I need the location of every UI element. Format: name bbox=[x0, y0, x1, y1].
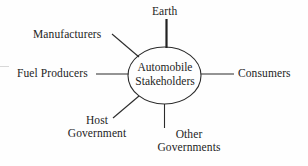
node-label-host-government-line1: Host bbox=[86, 114, 108, 126]
node-label-fuel-producers: Fuel Producers bbox=[17, 67, 88, 80]
connector-manufacturers bbox=[112, 34, 139, 57]
node-label-host-government-line2: Government bbox=[68, 127, 126, 139]
node-label-host-government: Host Government bbox=[57, 114, 137, 140]
hub-label-line2: Stakeholders bbox=[129, 74, 201, 88]
node-label-other-governments-line1: Other bbox=[176, 128, 203, 140]
node-label-consumers: Consumers bbox=[238, 67, 291, 80]
node-label-manufacturers: Manufacturers bbox=[33, 28, 101, 41]
node-label-earth: Earth bbox=[152, 5, 177, 18]
scan-artifact bbox=[0, 66, 9, 67]
node-label-other-governments-line2: Governments bbox=[157, 141, 220, 153]
hub-label-line1: Automobile bbox=[129, 60, 201, 74]
stakeholder-diagram: Automobile Stakeholders Earth Manufactur… bbox=[0, 0, 308, 166]
node-label-other-governments: Other Governments bbox=[146, 128, 232, 154]
hub-label: Automobile Stakeholders bbox=[129, 60, 201, 88]
